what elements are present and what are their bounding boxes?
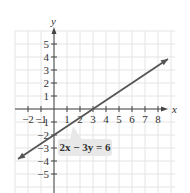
y-tick-label: −4: [37, 155, 49, 167]
y-tick-label: 2: [44, 77, 50, 89]
equation-callout: 2x − 3y = 6: [58, 126, 112, 156]
x-tick-label: −2: [22, 113, 34, 125]
x-axis-label: x: [171, 103, 177, 115]
x-tick-label: 5: [116, 113, 122, 125]
y-axis-label: y: [50, 15, 56, 27]
coordinate-graph: x y −2−11234567854321−1−2−3−4−5 2x − 3y …: [0, 0, 190, 193]
x-axis-arrow-icon: [161, 107, 168, 112]
x-tick-label: 4: [103, 113, 109, 125]
x-tick-label: 6: [129, 113, 135, 125]
y-tick-label: 3: [44, 64, 50, 76]
y-tick-label: −5: [37, 168, 49, 180]
x-tick-label: 3: [90, 113, 96, 125]
x-tick-label: 8: [155, 113, 161, 125]
y-tick-label: 4: [44, 51, 50, 63]
equation-label: 2x − 3y = 6: [59, 141, 111, 153]
y-tick-label: −3: [37, 142, 49, 154]
y-tick-label: 1: [44, 90, 50, 102]
x-tick-label: 1: [64, 113, 70, 125]
y-tick-label: 5: [44, 38, 50, 50]
x-tick-label: 7: [142, 113, 148, 125]
y-tick-label: −1: [37, 116, 49, 128]
